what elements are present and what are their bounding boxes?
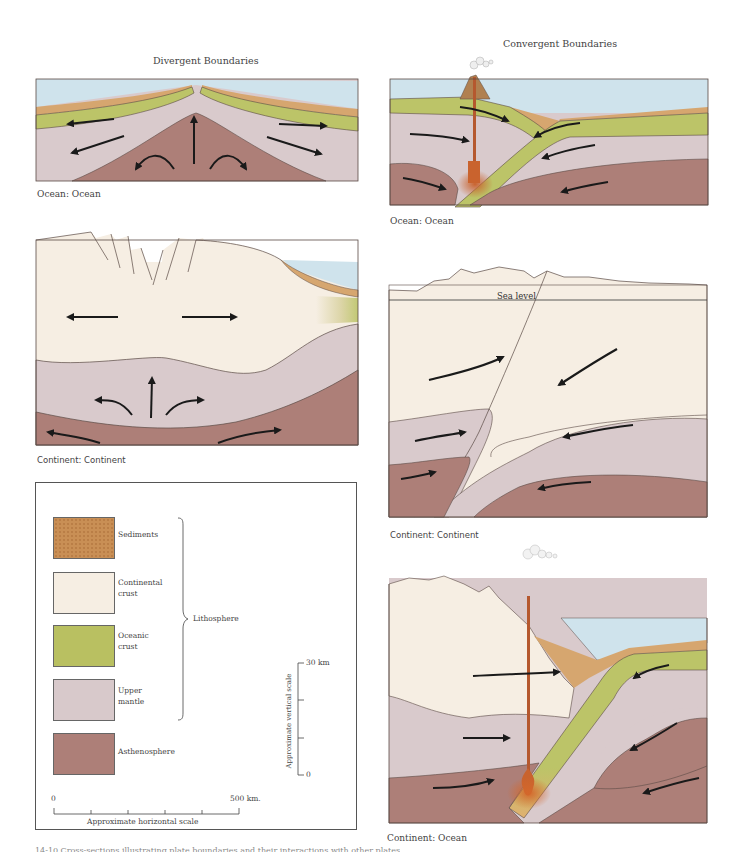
- legend-label-asthenosphere: Asthenosphere: [118, 746, 175, 757]
- vertical-scale-top-label: 30 km: [306, 658, 330, 667]
- convergent-boundaries-title: Convergent Boundaries: [503, 38, 617, 49]
- caption-convergent-continent-ocean: Continent: Ocean: [387, 833, 467, 843]
- legend-panel: Sediments Continentalcrust Oceaniccrust …: [35, 482, 357, 830]
- diagram-convergent-continent-continent: [389, 257, 707, 517]
- caption-divergent-ocean-ocean: Ocean: Ocean: [37, 189, 101, 199]
- horizontal-scale-left-label: 0: [51, 794, 56, 803]
- vertical-scale: [286, 661, 346, 779]
- sea-level-label: Sea level: [497, 291, 536, 301]
- legend-label-continental-crust: Continentalcrust: [118, 577, 162, 599]
- caption-convergent-continent-continent: Continent: Continent: [390, 530, 479, 540]
- divergent-boundaries-title: Divergent Boundaries: [153, 55, 259, 66]
- caption-convergent-ocean-ocean: Ocean: Ocean: [390, 216, 454, 226]
- legend-label-sediments: Sediments: [118, 529, 158, 540]
- legend-label-oceanic-crust: Oceaniccrust: [118, 630, 149, 652]
- vertical-scale-label: Approximate vertical scale: [285, 661, 293, 781]
- caption-divergent-continent-continent: Continent: Continent: [37, 455, 126, 465]
- diagram-divergent-ocean-ocean: [36, 79, 358, 181]
- vertical-scale-bottom-label: 0: [306, 770, 311, 779]
- swatch-upper-mantle: [53, 679, 115, 721]
- figure-caption: 14-10 Cross-sections illustrating plate …: [35, 845, 400, 852]
- diagram-convergent-continent-ocean: [389, 578, 707, 823]
- horizontal-scale-label: Approximate horizontal scale: [87, 817, 198, 826]
- swatch-sediments: [53, 517, 115, 559]
- diagram-convergent-ocean-ocean: [390, 79, 708, 205]
- horizontal-scale-right-label: 500 km.: [230, 794, 261, 803]
- swatch-continental-crust: [53, 572, 115, 614]
- legend-label-upper-mantle: Uppermantle: [118, 685, 144, 707]
- swatch-asthenosphere: [53, 733, 115, 775]
- diagram-divergent-continent-continent: [36, 240, 358, 445]
- swatch-oceanic-crust: [53, 625, 115, 667]
- lithosphere-label: Lithosphere: [193, 614, 239, 623]
